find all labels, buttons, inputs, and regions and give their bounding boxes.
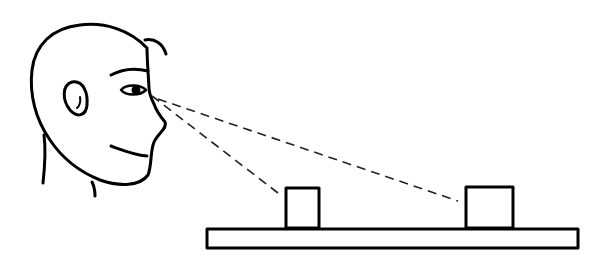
diagram-drawing <box>0 0 606 263</box>
perception-diagram <box>0 0 606 263</box>
observer-head <box>31 24 166 196</box>
sightline-near <box>152 96 278 193</box>
eye <box>121 86 146 95</box>
block-large <box>466 187 513 228</box>
base-board <box>207 229 578 248</box>
block-small <box>286 188 319 228</box>
sightline-far <box>158 99 458 201</box>
ear-icon <box>64 82 87 115</box>
